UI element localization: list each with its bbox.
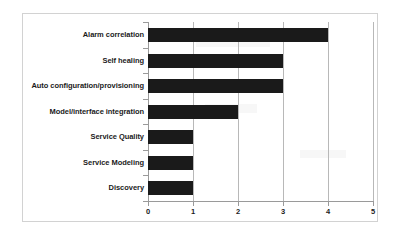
category-label: Discovery: [20, 183, 144, 192]
bar-row: [148, 99, 373, 125]
x-tick-mark-3: [283, 201, 284, 206]
x-tick-label-2: 2: [228, 207, 248, 216]
bar-row: [148, 175, 373, 201]
x-tick-mark-1: [193, 201, 194, 206]
category-axis-labels: Alarm correlationSelf healingAuto config…: [18, 22, 144, 201]
y-tick-mark: [143, 48, 148, 49]
category-label: Service Quality: [20, 132, 144, 141]
bar-row: [148, 124, 373, 150]
y-tick-mark: [143, 201, 148, 202]
category-label: Alarm correlation: [20, 30, 144, 39]
bar: [148, 105, 238, 119]
bar: [148, 28, 328, 42]
bar-row: [148, 150, 373, 176]
bar-row: [148, 73, 373, 99]
bar-row: [148, 22, 373, 48]
gridline-5: [373, 22, 374, 201]
x-tick-label-5: 5: [363, 207, 383, 216]
x-tick-label-3: 3: [273, 207, 293, 216]
x-tick-label-0: 0: [138, 207, 158, 216]
category-label: Self healing: [20, 56, 144, 65]
x-tick-mark-5: [373, 201, 374, 206]
y-tick-mark: [143, 124, 148, 125]
bar-row: [148, 48, 373, 74]
y-tick-mark: [143, 22, 148, 23]
x-tick-mark-2: [238, 201, 239, 206]
category-label: Model/interface integration: [20, 107, 144, 116]
bar: [148, 130, 193, 144]
x-axis-tick-labels: 012345: [0, 207, 398, 221]
y-tick-mark: [143, 99, 148, 100]
y-tick-mark: [143, 73, 148, 74]
bar: [148, 79, 283, 93]
x-tick-label-1: 1: [183, 207, 203, 216]
y-tick-mark: [143, 150, 148, 151]
category-label: Service Modeling: [20, 158, 144, 167]
x-tick-mark-0: [148, 201, 149, 206]
bar: [148, 54, 283, 68]
category-label: Auto configuration/provisioning: [20, 81, 144, 90]
bar: [148, 156, 193, 170]
bar-chart-figure: Alarm correlationSelf healingAuto config…: [0, 0, 398, 237]
y-tick-mark: [143, 175, 148, 176]
bar: [148, 181, 193, 195]
x-tick-mark-4: [328, 201, 329, 206]
x-tick-label-4: 4: [318, 207, 338, 216]
